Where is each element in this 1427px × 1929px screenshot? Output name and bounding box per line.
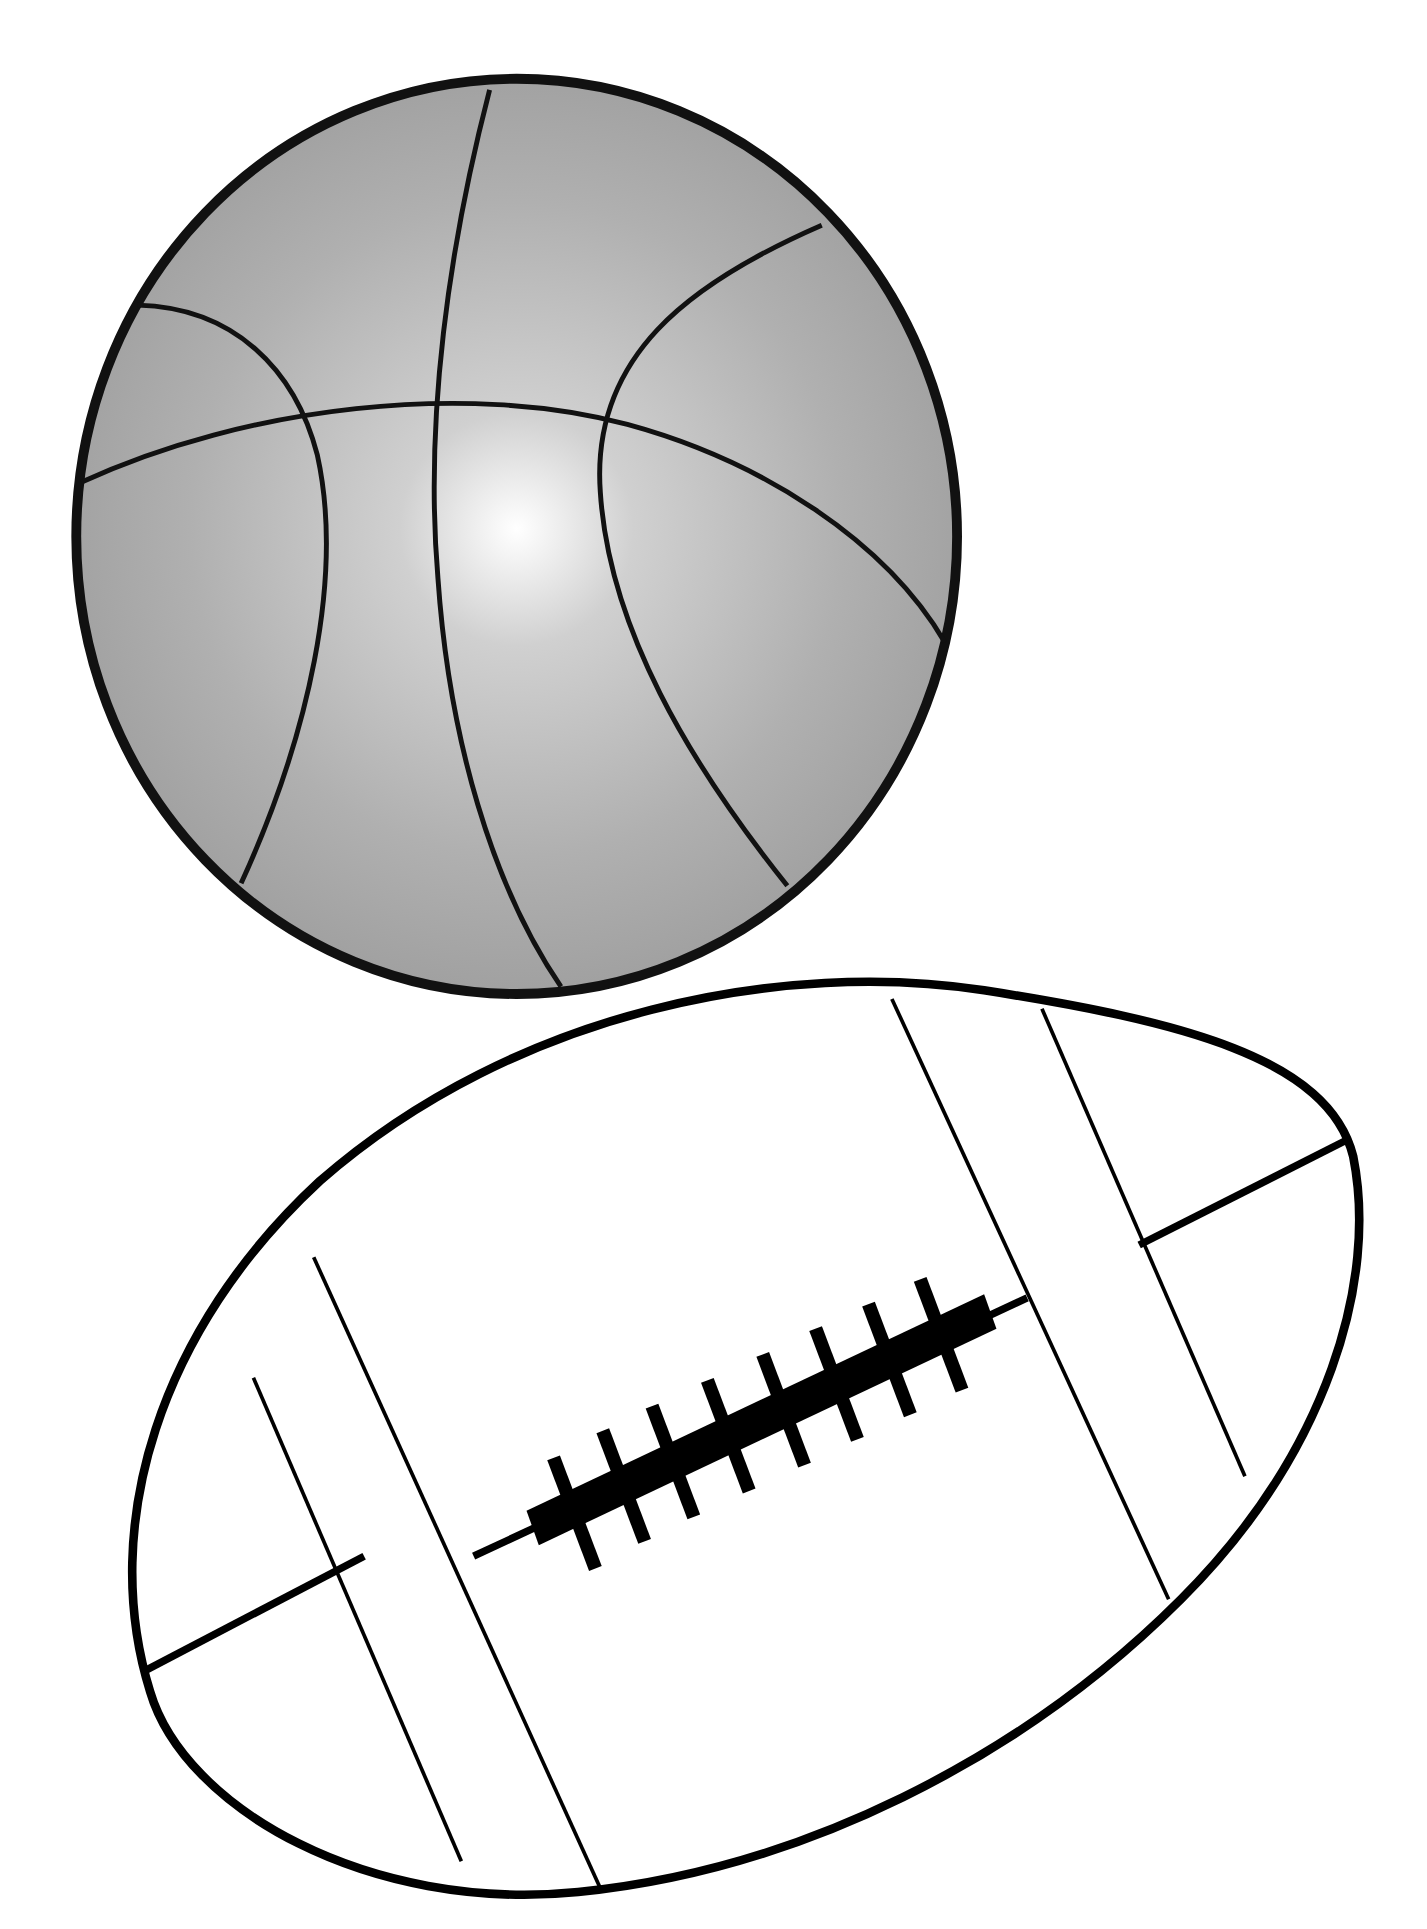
football-icon [132,982,1359,1895]
basketball-icon [76,79,957,994]
sports-balls-illustration [0,0,1427,1929]
